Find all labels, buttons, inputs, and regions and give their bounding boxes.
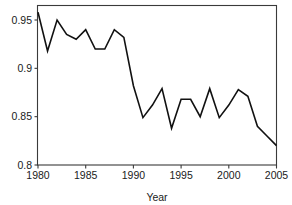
x-tick-label: 2000 bbox=[217, 169, 241, 181]
y-tick-label: 0.85 bbox=[12, 110, 33, 122]
y-axis-tick-labels: 0.80.850.90.95 bbox=[12, 14, 33, 171]
x-tick-label: 1995 bbox=[169, 169, 193, 181]
y-tick-label: 0.9 bbox=[17, 62, 32, 74]
x-tick-label: 1990 bbox=[122, 169, 146, 181]
y-tick-label: 0.95 bbox=[12, 14, 33, 26]
x-axis-title: Year bbox=[146, 191, 168, 203]
x-tick-label: 2005 bbox=[265, 169, 289, 181]
data-series-line bbox=[38, 12, 277, 145]
line-chart-canvas: 198019851990199520002005 0.80.850.90.95 … bbox=[0, 0, 292, 205]
x-tick-label: 1980 bbox=[26, 169, 50, 181]
y-tick-label: 0.8 bbox=[17, 159, 32, 171]
chart-figure: 198019851990199520002005 0.80.850.90.95 … bbox=[0, 0, 292, 205]
plot-frame bbox=[38, 6, 277, 166]
x-axis-tick-labels: 198019851990199520002005 bbox=[26, 169, 288, 181]
x-tick-label: 1985 bbox=[74, 169, 98, 181]
